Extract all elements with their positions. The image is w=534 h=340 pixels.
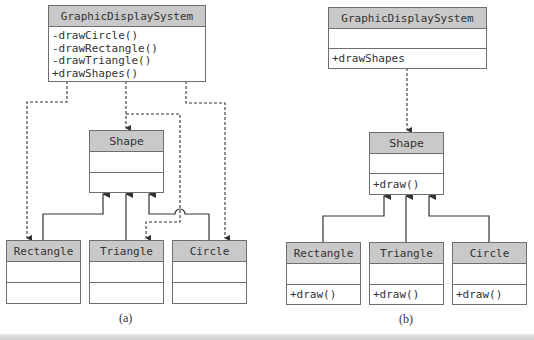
class-name: Circle (453, 243, 526, 264)
attributes-compartment (7, 262, 80, 283)
operation: -drawCircle() (52, 30, 205, 43)
operation: +draw() (373, 178, 419, 191)
operations-compartment: +draw() (370, 285, 443, 304)
operations-compartment: -drawCircle() -drawRectangle() -drawTria… (49, 27, 205, 81)
operations-compartment (7, 283, 80, 303)
class-name: Triangle (370, 243, 443, 264)
operation: -drawTriangle() (52, 55, 205, 68)
operations-compartment: +draw() (287, 285, 360, 304)
attributes-compartment (329, 29, 486, 49)
operations-compartment: +draw() (453, 285, 526, 304)
inheritance-lines-b (323, 196, 489, 242)
attributes-compartment (453, 264, 526, 285)
attributes-compartment (173, 262, 246, 283)
class-name: Shape (370, 133, 443, 154)
attributes-compartment (90, 152, 163, 173)
class-circle-a: Circle (172, 240, 247, 304)
class-name: GraphicDisplaySystem (329, 8, 486, 29)
operations-compartment: +draw() (370, 174, 443, 194)
class-graphic-display-system-a: GraphicDisplaySystem -drawCircle() -draw… (48, 5, 206, 82)
caption-b: (b) (399, 312, 413, 327)
attributes-compartment (90, 262, 163, 283)
class-name: Circle (173, 241, 246, 262)
operations-compartment (90, 173, 163, 192)
operation: +drawShapes (332, 52, 405, 65)
class-name: GraphicDisplaySystem (49, 6, 205, 27)
class-rectangle-b: Rectangle +draw() (286, 242, 361, 305)
class-shape-b: Shape +draw() (369, 132, 444, 195)
class-circle-b: Circle +draw() (452, 242, 527, 305)
class-rectangle-a: Rectangle (6, 240, 81, 304)
class-name: Shape (90, 131, 163, 152)
bottom-band (0, 334, 534, 340)
operation: +drawShapes() (52, 68, 205, 81)
class-triangle-a: Triangle (89, 240, 164, 304)
operation: +draw() (290, 288, 336, 301)
class-graphic-display-system-b: GraphicDisplaySystem +drawShapes (328, 7, 487, 69)
operations-compartment (90, 283, 163, 303)
operation: +draw() (373, 288, 419, 301)
class-name: Triangle (90, 241, 163, 262)
attributes-compartment (370, 264, 443, 285)
class-name: Rectangle (287, 243, 360, 264)
attributes-compartment (370, 154, 443, 174)
operations-compartment: +drawShapes (329, 49, 486, 68)
caption-a: (a) (119, 311, 132, 326)
operation: +draw() (456, 288, 502, 301)
class-shape-a: Shape (89, 130, 164, 193)
class-triangle-b: Triangle +draw() (369, 242, 444, 305)
inheritance-lines-a (43, 194, 209, 240)
class-name: Rectangle (7, 241, 80, 262)
operations-compartment (173, 283, 246, 303)
attributes-compartment (287, 264, 360, 285)
